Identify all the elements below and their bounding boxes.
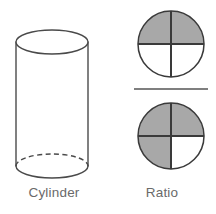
cylinder-drawing <box>0 0 108 214</box>
cylinder-bottom-front-arc <box>16 166 88 178</box>
ratio-drawing <box>108 0 216 214</box>
cylinder-figure: Cylinder <box>0 0 108 214</box>
cylinder-top-ellipse <box>16 30 88 54</box>
illustration-canvas: Cylinder <box>0 0 216 214</box>
cylinder-bottom-hidden-arc <box>16 154 88 166</box>
numerator-circle <box>138 11 204 77</box>
ratio-label: Ratio <box>108 185 216 201</box>
ratio-figure: Ratio <box>108 0 216 214</box>
denominator-circle <box>138 103 204 169</box>
cylinder-label: Cylinder <box>0 185 108 201</box>
